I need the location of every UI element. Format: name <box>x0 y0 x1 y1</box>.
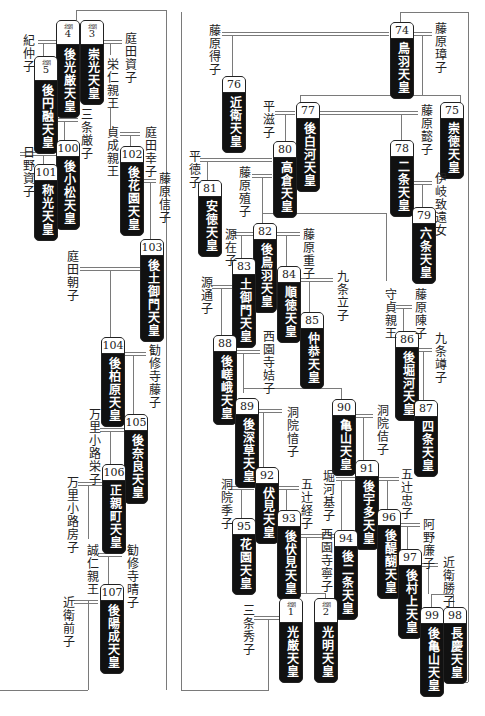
emperor-74[interactable]: 74鳥羽天皇 <box>390 22 414 99</box>
emperor-101[interactable]: 101称光天皇 <box>34 164 58 241</box>
person-yoshihito-shinno[interactable]: 栄仁親王 <box>104 58 117 110</box>
person-kujo-shunshi[interactable]: 九条竴子 <box>432 332 445 384</box>
emperor-number: 78 <box>391 141 413 157</box>
person-sanehito-shinno[interactable]: 誠仁親王 <box>84 544 97 596</box>
descent-line <box>286 489 287 511</box>
person-ano-renshi[interactable]: 阿野廉子 <box>420 518 433 570</box>
person-kujo-risshi[interactable]: 九条立子 <box>334 270 347 322</box>
person-sanjo-hideko[interactable]: 三条秀子 <box>240 604 253 656</box>
emperor-98[interactable]: 98長慶天皇 <box>443 607 467 684</box>
person-niwata-sukeko[interactable]: 庭田資子 <box>122 32 135 84</box>
emperor-name: 花園天皇 <box>237 535 252 594</box>
emperor-106[interactable]: 106正親町天皇 <box>102 464 126 554</box>
emperor-name: 亀山天皇 <box>337 416 352 475</box>
descent-line <box>286 235 287 267</box>
person-fujiwara-ishi[interactable]: 藤原懿子 <box>418 104 431 156</box>
emperor-name: 六条天皇 <box>417 224 432 283</box>
person-madenokoji-fusako[interactable]: 万里小路房子 <box>64 476 77 554</box>
marriage-line <box>122 352 146 353</box>
descent-line <box>300 95 460 96</box>
emperor-95[interactable]: 95花園天皇 <box>232 518 256 595</box>
person-itsutsuji-tadako[interactable]: 五辻忠子 <box>398 468 411 520</box>
person-minamoto-no-michiko[interactable]: 源通子 <box>198 276 211 315</box>
emperor-number-value: 2 <box>323 606 329 617</box>
person-taira-no-shigeko[interactable]: 平滋子 <box>260 100 273 139</box>
person-fujiwara-no-chinshi[interactable]: 藤原陳子 <box>412 288 425 340</box>
emperor-84[interactable]: 84順徳天皇 <box>277 266 301 343</box>
emperor-81[interactable]: 81安徳天皇 <box>198 180 222 257</box>
emperor-90[interactable]: 90亀山天皇 <box>332 399 356 476</box>
person-iki-no-munetoo-daughter[interactable]: 伊岐致遠女 <box>432 172 445 237</box>
person-niwata-sachiko[interactable]: 庭田幸子 <box>142 126 155 178</box>
person-morisada-shinno[interactable]: 守貞親王 <box>382 288 395 340</box>
emperor-104[interactable]: 104後柏原天皇 <box>101 337 125 427</box>
person-kajuji-fujiko[interactable]: 勧修寺藤子 <box>146 344 159 409</box>
emperor-102[interactable]: 102後花園天皇 <box>120 146 144 236</box>
descent-line <box>243 353 244 393</box>
emperor-92[interactable]: 92伏見天皇 <box>255 467 279 544</box>
person-taira-no-tokuko[interactable]: 平徳子 <box>186 150 199 189</box>
emperor-100[interactable]: 100後小松天皇 <box>56 140 80 230</box>
emperor-75[interactable]: 75崇徳天皇 <box>440 102 464 179</box>
person-fujiwara-shokushi[interactable]: 藤原殖子 <box>236 166 249 218</box>
emperor-76[interactable]: 76近衛天皇 <box>222 76 246 153</box>
emperor-107[interactable]: 107後陽成天皇 <box>100 584 124 674</box>
person-horikawa-motoko[interactable]: 堀河基子 <box>320 470 333 522</box>
emperor-number: 105 <box>125 415 147 431</box>
emperor-85[interactable]: 85仲恭天皇 <box>300 312 324 389</box>
person-niwata-asako[interactable]: 庭田朝子 <box>64 250 77 302</box>
marriage-line <box>254 616 280 617</box>
person-hino-sukeko[interactable]: 日野資子 <box>20 146 33 198</box>
person-itsutsuji-tsuneko[interactable]: 五辻経子 <box>298 478 311 530</box>
person-ki-no-nakako[interactable]: 紀仲子 <box>20 34 33 73</box>
person-saionji-neishi[interactable]: 西園寺寧子 <box>318 528 331 593</box>
person-fujiwara-nobuko[interactable]: 藤原信子 <box>156 172 169 224</box>
person-toin-inshi[interactable]: 洞院愔子 <box>284 406 297 458</box>
person-fujiwara-shoshi[interactable]: 藤原璋子 <box>432 22 445 74</box>
emperor-name: 後白河天皇 <box>301 119 316 191</box>
person-sadafusa-shinno[interactable]: 貞成親王 <box>104 126 117 178</box>
emperor-number: 77 <box>297 103 319 119</box>
emperor-97[interactable]: 97後村上天皇 <box>398 549 422 639</box>
northern-emperor-4[interactable]: 北朝4後光厳天皇 <box>56 20 80 118</box>
emperor-number-value: 3 <box>89 28 95 39</box>
emperor-87[interactable]: 87四条天皇 <box>414 400 438 477</box>
emperor-103[interactable]: 103後土御門天皇 <box>140 239 164 342</box>
emperor-88[interactable]: 88後嵯峨天皇 <box>213 335 237 425</box>
emperor-77[interactable]: 77後白河天皇 <box>296 102 320 192</box>
person-fujiwara-no-juushi[interactable]: 藤原重子 <box>300 228 313 280</box>
emperor-number: 90 <box>333 400 355 416</box>
person-kajuji-haruko[interactable]: 勧修寺晴子 <box>124 544 137 609</box>
emperor-name: 後二条天皇 <box>339 547 354 619</box>
emperor-82[interactable]: 82後鳥羽天皇 <box>253 223 277 313</box>
person-sanjo-itsuko[interactable]: 三条厳子 <box>78 108 91 160</box>
northern-emperor-5[interactable]: 北朝5後円融天皇 <box>34 56 58 154</box>
person-konoe-sakiko[interactable]: 近衛前子 <box>60 596 73 648</box>
emperor-number: 北朝3 <box>81 21 103 45</box>
emperor-78[interactable]: 78二条天皇 <box>390 140 414 217</box>
person-toin-kitsushi[interactable]: 洞院佶子 <box>374 404 387 456</box>
person-fujiwara-tokushi[interactable]: 藤原得子 <box>206 24 219 76</box>
emperor-number-value: 1 <box>288 606 294 617</box>
emperor-name: 後堀河天皇 <box>400 348 415 420</box>
person-toin-sueko[interactable]: 洞院季子 <box>218 478 231 530</box>
northern-emperor-3[interactable]: 北朝3崇光天皇 <box>80 20 104 105</box>
emperor-91[interactable]: 91後宇多天皇 <box>355 460 379 550</box>
emperor-number: 80 <box>274 142 296 158</box>
descent-line <box>285 114 286 142</box>
person-saionji-kisshi[interactable]: 西園寺姞子 <box>260 330 273 395</box>
northern-emperor-1[interactable]: 北朝1光厳天皇 <box>279 598 303 683</box>
marriage-line <box>74 603 98 604</box>
emperor-105[interactable]: 105後奈良天皇 <box>124 414 148 504</box>
person-minamoto-no-zaishi[interactable]: 源在子 <box>222 228 235 267</box>
emperor-name: 後村上天皇 <box>403 566 418 638</box>
northern-emperor-2[interactable]: 北朝2光明天皇 <box>314 598 338 683</box>
emperor-name: 後宇多天皇 <box>360 477 375 549</box>
marriage-line <box>200 158 272 159</box>
person-konoe-katsuko[interactable]: 近衛勝子 <box>440 556 453 608</box>
person-madenokoji-eiko[interactable]: 万里小路栄子 <box>86 408 99 486</box>
emperor-83[interactable]: 83土御門天皇 <box>232 258 256 348</box>
marriage-line <box>233 235 253 236</box>
emperor-99[interactable]: 99後亀山天皇 <box>420 607 444 697</box>
emperor-80[interactable]: 80高倉天皇 <box>273 141 297 218</box>
